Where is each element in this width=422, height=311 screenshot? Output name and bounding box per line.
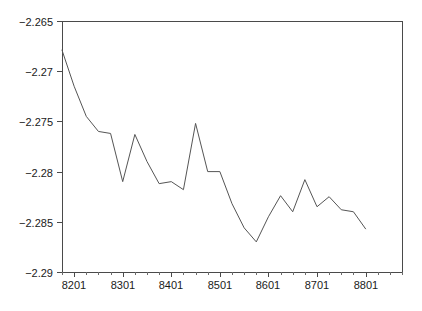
x-axis-tick-labels: 8201830184018501860187018801 <box>62 279 378 291</box>
plot-frame <box>62 21 402 272</box>
data-series-group <box>62 50 366 242</box>
x-tick-label: 8401 <box>159 279 183 291</box>
line-chart: −2.265−2.27−2.275−2.28−2.285−2.29 820183… <box>0 0 422 311</box>
y-tick-label: −2.27 <box>25 66 53 78</box>
x-axis-ticks <box>63 272 403 277</box>
x-tick-label: 8201 <box>62 279 86 291</box>
y-axis-tick-labels: −2.265−2.27−2.275−2.28−2.285−2.29 <box>19 16 53 279</box>
chart-container: −2.265−2.27−2.275−2.28−2.285−2.29 820183… <box>0 0 422 311</box>
axis-frame <box>62 21 402 272</box>
y-tick-label: −2.28 <box>25 167 53 179</box>
series-line-1 <box>62 50 366 242</box>
y-tick-label: −2.285 <box>19 217 53 229</box>
y-axis-ticks <box>57 22 62 273</box>
x-tick-label: 8801 <box>354 279 378 291</box>
x-tick-label: 8601 <box>256 279 280 291</box>
y-tick-label: −2.29 <box>25 267 53 279</box>
x-tick-label: 8301 <box>111 279 135 291</box>
x-tick-label: 8501 <box>208 279 232 291</box>
x-tick-label: 8701 <box>305 279 329 291</box>
y-tick-label: −2.265 <box>19 16 53 28</box>
y-tick-label: −2.275 <box>19 116 53 128</box>
